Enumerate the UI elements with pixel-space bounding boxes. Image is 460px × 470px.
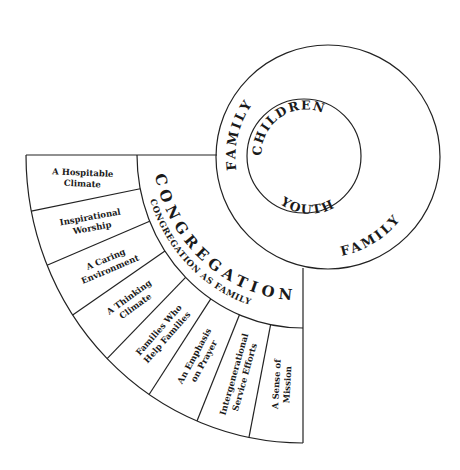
section-item: A ThinkingClimate xyxy=(104,278,160,327)
section-divider xyxy=(249,325,271,438)
youth-label: YOUTH xyxy=(277,193,337,217)
section-label-line2: Mission xyxy=(281,366,293,404)
section-item: InspirationalWorship xyxy=(59,206,124,238)
section-divider xyxy=(31,189,140,211)
section-item: An Emphasison Prayer xyxy=(175,326,224,391)
family-congregation-diagram: FAMILY FAMILY CHILDREN YOUTH CONGREGATIO… xyxy=(0,0,460,470)
outer-family-circle xyxy=(216,45,440,269)
section-label-line1: A Hospitable xyxy=(51,166,114,179)
family-label-bottom: FAMILY xyxy=(339,211,404,259)
section-item: A Sense ofMission xyxy=(270,358,294,411)
section-label-line2: Climate xyxy=(64,178,102,190)
section-item: A HospitableClimate xyxy=(51,166,115,190)
section-item: Families WhoHelp Families xyxy=(133,302,192,365)
children-label: CHILDREN xyxy=(249,98,328,157)
